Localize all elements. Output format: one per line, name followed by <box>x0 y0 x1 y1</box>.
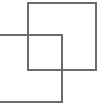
front-square <box>0 34 63 103</box>
